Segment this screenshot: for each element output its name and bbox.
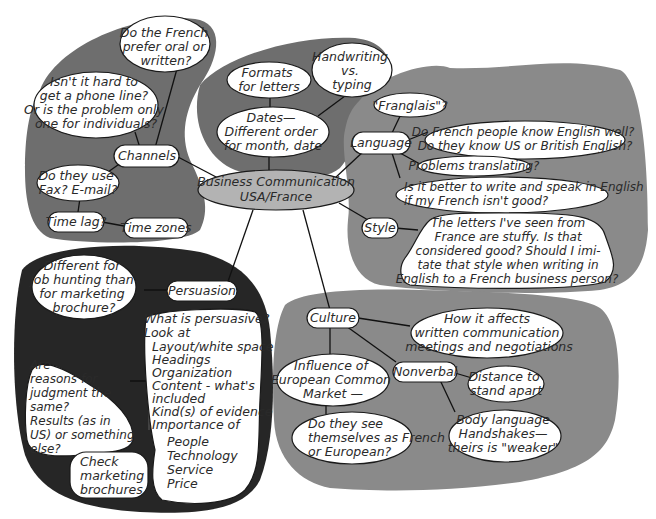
svg-text:Distance to stand apart: Distance to stand apart bbox=[468, 369, 543, 398]
persuasion-label: Persuasion bbox=[168, 283, 236, 298]
node-text: Do the French bbox=[120, 25, 209, 40]
node-text: Fax? E-mail? bbox=[39, 182, 118, 197]
node-distance[interactable]: Distance to stand apart bbox=[468, 366, 544, 402]
node-language[interactable]: Language bbox=[350, 132, 412, 154]
style-label: Style bbox=[364, 220, 396, 235]
list-item: Service bbox=[167, 462, 214, 477]
node-text: What is persuasive? bbox=[144, 311, 270, 326]
svg-text:Do French people know English: Do French people know English well? Do t… bbox=[412, 125, 638, 153]
node-text: Handshakes— bbox=[459, 426, 548, 441]
node-text: brochures bbox=[80, 482, 143, 497]
node-text: written communication bbox=[415, 325, 560, 340]
node-text: one for individuals? bbox=[35, 116, 158, 131]
node-text: European Common bbox=[271, 372, 391, 387]
node-text: Or is the problem only bbox=[24, 102, 164, 117]
node-body-language[interactable]: Body language Handshakes— theirs is "wea… bbox=[448, 410, 561, 462]
node-text: France are stuffy. Is that bbox=[435, 230, 583, 244]
node-text: typing bbox=[332, 77, 372, 92]
node-text: meetings and negotiations bbox=[405, 339, 573, 354]
node-text: Do French people know English well? bbox=[412, 125, 635, 139]
node-text: reasons for bbox=[30, 372, 99, 386]
node-text: Different order bbox=[225, 124, 319, 139]
node-text: theirs is "weaker" bbox=[448, 440, 559, 455]
node-channels[interactable]: Channels bbox=[114, 145, 179, 167]
node-text: Isn't it hard to bbox=[50, 74, 138, 89]
node-text: job hunting than bbox=[28, 272, 133, 287]
node-text: Handwriting bbox=[312, 49, 388, 64]
node-text: Formats bbox=[241, 65, 293, 80]
node-text: Are bbox=[29, 358, 51, 372]
list-item: People bbox=[167, 434, 209, 449]
node-text: Dates— bbox=[247, 110, 296, 125]
node-style[interactable]: Style bbox=[362, 218, 398, 238]
node-text: prefer oral or bbox=[122, 39, 207, 54]
node-text: vs. bbox=[341, 63, 359, 78]
look-at-list: Layout/white space Headings Organization… bbox=[152, 339, 278, 432]
node-text: marketing bbox=[80, 468, 144, 483]
node-text: get a phone line? bbox=[40, 88, 149, 103]
node-text: Body language bbox=[456, 412, 550, 427]
node-text: if my French isn't good? bbox=[404, 194, 549, 208]
node-letters-stuffy[interactable]: The letters I've seen from France are st… bbox=[396, 213, 619, 288]
node-culture[interactable]: Culture bbox=[307, 308, 359, 328]
node-text: Results (as in bbox=[30, 414, 111, 428]
node-formats-letters[interactable]: Formats for letters bbox=[227, 62, 311, 98]
node-text: for month, date bbox=[224, 138, 322, 153]
node-text: for letters bbox=[238, 79, 300, 94]
node-text: written? bbox=[141, 53, 192, 68]
nonverbal-label: Nonverbal bbox=[393, 364, 458, 379]
language-label: Language bbox=[350, 135, 412, 150]
node-franglais[interactable]: "Franglais"? bbox=[372, 93, 447, 117]
node-text: The letters I've seen from bbox=[431, 216, 585, 230]
node-text: Do they know US or British English? bbox=[418, 139, 633, 153]
node-text: English to a French business person? bbox=[396, 272, 619, 286]
node-text: "Franglais"? bbox=[372, 98, 447, 113]
list-item: Importance of bbox=[152, 417, 241, 432]
center-title: Business Communication bbox=[197, 174, 355, 189]
node-text: Do they use bbox=[38, 168, 114, 183]
node-nonverbal[interactable]: Nonverbal bbox=[393, 362, 458, 382]
center-subtitle: USA/France bbox=[240, 189, 313, 204]
channels-label: Channels bbox=[118, 148, 176, 163]
node-text: stand apart bbox=[470, 383, 543, 398]
node-dates[interactable]: Dates— Different order for month, date bbox=[217, 107, 329, 157]
svg-text:Formats for letters: Formats for letters bbox=[238, 65, 300, 94]
node-text: Problems translating? bbox=[409, 159, 540, 173]
mind-map: Business Communication USA/France Do the… bbox=[0, 0, 656, 519]
node-persuasion[interactable]: Persuasion bbox=[167, 281, 237, 301]
node-text: Market — bbox=[303, 386, 363, 401]
node-text: Distance to bbox=[468, 369, 540, 384]
node-text: else? bbox=[30, 442, 61, 456]
node-text: Check bbox=[80, 454, 119, 469]
list-item: Price bbox=[167, 476, 198, 491]
node-time-lag[interactable]: Time lag? bbox=[46, 212, 107, 232]
svg-text:Do they use Fax? E-mail?: Do they use Fax? E-mail? bbox=[38, 168, 117, 197]
culture-label: Culture bbox=[310, 310, 356, 325]
node-text: Time zones bbox=[120, 220, 192, 235]
node-handwriting[interactable]: Handwriting vs. typing bbox=[312, 43, 392, 97]
node-text: judgment the bbox=[28, 386, 111, 400]
node-fax-email[interactable]: Do they use Fax? E-mail? bbox=[37, 165, 119, 201]
svg-text:Body language Handshakes: Body language Handshakes— theirs is "wea… bbox=[448, 412, 559, 455]
list-item: Technology bbox=[167, 448, 238, 463]
node-text: themselves as French bbox=[308, 430, 445, 445]
node-text: Look at bbox=[144, 325, 191, 340]
node-check-brochures[interactable]: Check marketing brochures bbox=[70, 452, 148, 498]
node-text: for marketing bbox=[39, 286, 124, 301]
center-node[interactable]: Business Communication USA/France bbox=[197, 170, 355, 210]
node-text: Do they see bbox=[308, 416, 383, 431]
node-time-zones[interactable]: Time zones bbox=[120, 218, 192, 238]
node-text: Is it better to write and speak in Engli… bbox=[404, 180, 644, 194]
node-text: considered good? Should I imi- bbox=[416, 244, 601, 258]
node-text: Different for bbox=[44, 258, 121, 273]
node-text: Influence of bbox=[294, 358, 369, 373]
node-text: US) or something bbox=[30, 428, 135, 442]
node-text: Time lag? bbox=[46, 214, 107, 229]
node-text: tate that style when writing in bbox=[418, 258, 599, 272]
node-text: brochure? bbox=[53, 300, 116, 315]
node-text: How it affects bbox=[444, 311, 531, 326]
node-text: or European? bbox=[308, 444, 392, 459]
node-text: same? bbox=[30, 400, 70, 414]
